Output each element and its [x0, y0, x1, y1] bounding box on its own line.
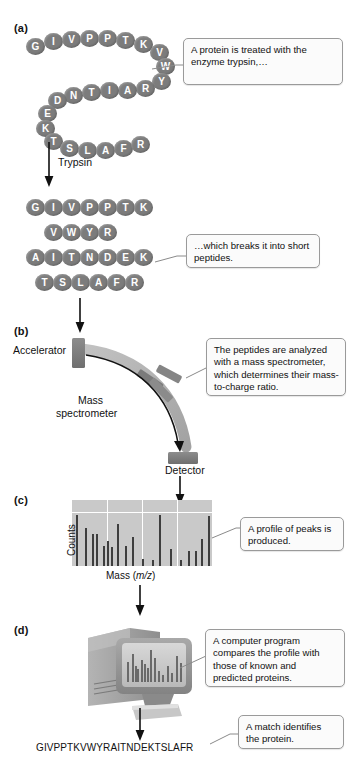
peptide-residue-letter: S	[59, 277, 66, 287]
screen-peak-bar	[144, 664, 146, 682]
peptide-residue-letter: T	[68, 252, 74, 262]
spectrum-gridline-horizontal	[72, 512, 212, 513]
peptide-residue-bead: R	[98, 224, 117, 241]
screen-peak-bar	[127, 662, 129, 682]
peptide-residue-bead: G	[26, 199, 45, 216]
peptide-residue-bead: I	[44, 199, 63, 216]
spectrum-peak-bar	[208, 516, 210, 566]
peptide-residue-bead: P	[80, 199, 99, 216]
screen-peak-bar	[132, 654, 134, 682]
peptide-residue-bead: L	[71, 274, 90, 291]
spectrum-peak-bar	[92, 534, 94, 566]
peptide-residue-letter: K	[140, 252, 147, 262]
peptide-residue-letter: F	[113, 277, 119, 287]
peptide-residue-letter: E	[122, 252, 129, 262]
peptide-residue-bead: F	[107, 274, 126, 291]
spectrum-peak-bar	[96, 534, 98, 566]
spectrum-peak-bar	[125, 546, 127, 566]
peptide-residue-letter: W	[67, 227, 76, 237]
peptide-residue-letter: R	[131, 277, 138, 287]
callout-mass-spectrometer: The peptides are analyzed with a mass sp…	[206, 338, 346, 396]
spectrum-peak-bar	[142, 559, 144, 566]
peptide-residue-letter: G	[32, 202, 40, 212]
spectrometer-label-line2: spectrometer	[56, 407, 117, 419]
screen-peak-bar	[176, 656, 178, 682]
screen-peak-bar	[162, 675, 164, 682]
peptide-residue-letter: K	[140, 202, 147, 212]
peptide-residue-letter: D	[104, 252, 111, 262]
spectrum-peak-bar	[117, 524, 119, 566]
spectrum-peak-bar	[132, 537, 134, 566]
spectrum-peak-bar	[201, 539, 203, 566]
screen-peak-bar	[154, 658, 156, 682]
peptide-residue-letter: V	[68, 202, 75, 212]
peptide-residue-letter: P	[104, 202, 111, 212]
panel-label-d: (d)	[14, 624, 29, 636]
peptide-residue-bead: Y	[80, 224, 99, 241]
mass-spectrum-chart	[72, 500, 212, 566]
peptide-residue-bead: N	[80, 249, 99, 266]
figure-root: (a) GIVPPTKVWYRAITNDEKTSLAFR A protein i…	[0, 0, 352, 771]
peptide-residue-letter: R	[104, 227, 111, 237]
peptide-residue-letter: N	[86, 252, 93, 262]
peptide-residue-bead: T	[62, 249, 81, 266]
peptide-residue-letter: P	[86, 202, 93, 212]
spectrum-peak-bar	[103, 546, 105, 566]
callout-short-peptides: …which breaks it into short peptides.	[186, 234, 320, 268]
peptide-residue-letter: I	[52, 202, 55, 212]
peptide-residue-bead: S	[53, 274, 72, 291]
arrow-to-spectrometer-icon	[73, 298, 93, 334]
peptide-residue-bead: W	[62, 224, 81, 241]
spectrum-y-axis-label: Counts	[66, 524, 77, 556]
peptide-residue-bead: A	[26, 249, 45, 266]
screen-peak-bar	[158, 671, 160, 682]
spectrometer-label-line1: Mass	[78, 394, 103, 406]
peptide-residue-letter: T	[122, 202, 128, 212]
identified-protein-sequence: GIVPPTKVWYRAITNDEKTSLAFR	[36, 742, 193, 753]
peptide-residue-bead: A	[89, 274, 108, 291]
spectrum-peak-bar	[159, 515, 161, 566]
x-label-italic: m/z	[136, 570, 152, 581]
spectrum-peak-bar	[195, 551, 197, 566]
arrow-to-computer-icon	[133, 585, 153, 617]
accelerator-label: Accelerator	[13, 344, 66, 356]
detector-label: Detector	[165, 464, 205, 476]
screen-peak-bar	[147, 668, 149, 682]
spectrum-gridline-vertical	[177, 500, 178, 566]
peptide-residue-letter: A	[95, 277, 102, 287]
peptide-residue-bead: T	[116, 199, 135, 216]
spectrum-plot-area	[72, 500, 212, 566]
peptide-residue-letter: Y	[86, 227, 93, 237]
spectrum-peak-bar	[85, 528, 87, 566]
spectrum-peak-bar	[188, 551, 190, 567]
peptide-residue-bead: I	[44, 249, 63, 266]
peptide-residue-letter: T	[41, 277, 47, 287]
peptide-residue-letter: I	[52, 252, 55, 262]
callout-computer-program: A computer program compares the profile …	[205, 629, 345, 687]
screen-peak-bar	[137, 669, 139, 682]
spectrum-peak-bar	[180, 560, 182, 566]
peptide-residue-letter: L	[77, 277, 83, 287]
screen-peak-bar	[171, 673, 173, 682]
screen-peak-bar	[141, 660, 143, 682]
peptide-residue-bead: T	[35, 274, 54, 291]
peptide-residue-bead: P	[98, 199, 117, 216]
x-label-suffix: )	[152, 570, 155, 581]
peptide-residue-bead: E	[116, 249, 135, 266]
peptide-residue-bead: K	[134, 249, 153, 266]
peptide-residue-bead: R	[125, 274, 144, 291]
callout-peak-profile: A profile of peaks is produced.	[240, 517, 344, 551]
computer-screen-spectrum	[124, 646, 184, 682]
peptide-residue-letter: V	[50, 227, 57, 237]
spectrum-peak-bar	[170, 549, 172, 566]
peptide-residue-letter: A	[32, 252, 39, 262]
spectrum-x-axis-label: Mass (m/z)	[106, 570, 155, 581]
peptide-residue-bead: K	[134, 199, 153, 216]
peptide-residue-bead: V	[62, 199, 81, 216]
spectrum-peak-bar	[152, 560, 154, 566]
panel-label-c: (c)	[14, 494, 28, 506]
x-label-prefix: Mass (	[106, 570, 136, 581]
peptide-residue-bead: V	[44, 224, 63, 241]
screen-peak-bar	[150, 650, 152, 682]
callout-match-identifies: A match identifies the protein.	[238, 715, 344, 749]
